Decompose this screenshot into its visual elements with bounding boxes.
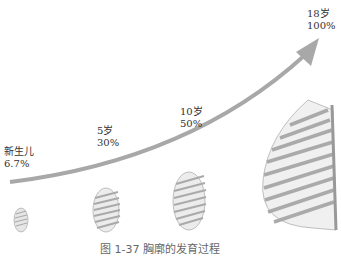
growth-arrow — [10, 55, 305, 182]
stage-age: 新生儿 — [4, 146, 34, 158]
stage-age: 18岁 — [307, 8, 336, 20]
stage-age: 5岁 — [97, 125, 119, 137]
stage-percent: 30% — [97, 137, 119, 149]
stage-label-18yr: 18岁 100% — [307, 8, 336, 32]
stage-percent: 50% — [180, 118, 203, 130]
stage-label-newborn: 新生儿 6.7% — [4, 146, 34, 170]
figure-caption: 图 1-37 胸廓的发育过程 — [100, 240, 220, 256]
stage-age: 10岁 — [180, 106, 203, 118]
stage-label-10yr: 10岁 50% — [180, 106, 203, 130]
ribcage-18yr — [263, 100, 336, 230]
ribcage-5yr — [93, 188, 120, 232]
ribcage-10yr — [173, 172, 206, 230]
stage-percent: 100% — [307, 20, 336, 32]
ribcage-newborn — [14, 208, 28, 232]
stage-label-5yr: 5岁 30% — [97, 125, 119, 149]
stage-percent: 6.7% — [4, 158, 34, 170]
